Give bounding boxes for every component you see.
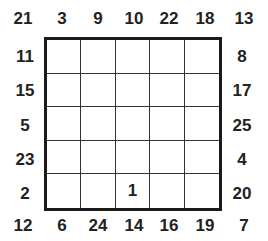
top-clue: 18	[190, 8, 220, 30]
grid-cell-r2c4[interactable]	[150, 74, 184, 108]
left-clue: 15	[10, 80, 40, 102]
corner-clue-bottom-left: 12	[8, 215, 38, 237]
grid-cell-r3c1[interactable]	[47, 107, 81, 141]
grid-cell-r5c3[interactable]: 1	[116, 174, 150, 208]
grid-cell-r1c2[interactable]	[81, 40, 115, 74]
grid-cell-r2c5[interactable]	[185, 74, 219, 108]
left-clue: 23	[10, 149, 40, 171]
corner-clue-top-right: 13	[229, 8, 259, 30]
corner-clue-top-left: 21	[8, 8, 38, 30]
left-clue: 11	[10, 46, 40, 68]
grid-cell-r1c1[interactable]	[47, 40, 81, 74]
right-clue: 8	[227, 46, 257, 68]
right-clue: 4	[227, 149, 257, 171]
top-clue: 3	[47, 8, 77, 30]
bottom-clue: 16	[154, 215, 184, 237]
grid-cell-r5c1[interactable]	[47, 174, 81, 208]
grid-cell-r4c5[interactable]	[185, 141, 219, 175]
bottom-clue: 6	[47, 215, 77, 237]
left-clue: 5	[10, 115, 40, 137]
grid-cell-r2c1[interactable]	[47, 74, 81, 108]
right-clue: 17	[227, 80, 257, 102]
grid-cell-r5c2[interactable]	[81, 174, 115, 208]
grid-cell-r4c2[interactable]	[81, 141, 115, 175]
grid-cell-r5c4[interactable]	[150, 174, 184, 208]
grid-cell-r3c2[interactable]	[81, 107, 115, 141]
right-clue: 20	[227, 183, 257, 205]
grid-cell-r1c3[interactable]	[116, 40, 150, 74]
puzzle-grid: 1	[44, 37, 222, 211]
grid-cell-r5c5[interactable]	[185, 174, 219, 208]
grid-cell-r2c2[interactable]	[81, 74, 115, 108]
grid-cell-r1c4[interactable]	[150, 40, 184, 74]
grid-cell-r4c1[interactable]	[47, 141, 81, 175]
bottom-clue: 24	[83, 215, 113, 237]
bottom-clue: 19	[190, 215, 220, 237]
corner-clue-bottom-right: 7	[229, 215, 259, 237]
bottom-clue: 14	[119, 215, 149, 237]
right-clue: 25	[227, 115, 257, 137]
grid-cell-r4c4[interactable]	[150, 141, 184, 175]
top-clue: 22	[154, 8, 184, 30]
top-clue: 10	[119, 8, 149, 30]
grid-cell-r3c5[interactable]	[185, 107, 219, 141]
grid-cell-r3c3[interactable]	[116, 107, 150, 141]
grid-cell-r1c5[interactable]	[185, 40, 219, 74]
grid-cell-r2c3[interactable]	[116, 74, 150, 108]
left-clue: 2	[10, 183, 40, 205]
grid-cell-r3c4[interactable]	[150, 107, 184, 141]
grid-cell-r4c3[interactable]	[116, 141, 150, 175]
top-clue: 9	[83, 8, 113, 30]
